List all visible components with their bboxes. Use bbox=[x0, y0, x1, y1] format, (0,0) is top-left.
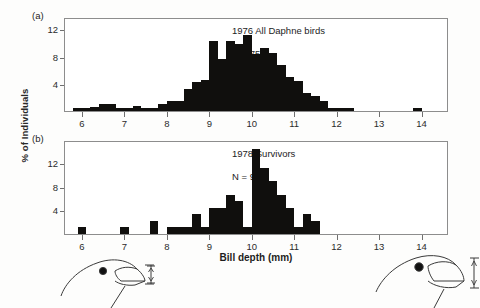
histogram-bar bbox=[303, 214, 311, 234]
finch-head-large-bill-icon bbox=[372, 248, 480, 308]
histogram-bar bbox=[184, 227, 192, 234]
histogram-bar bbox=[311, 221, 319, 234]
histogram-bar bbox=[167, 101, 175, 111]
histogram-bar bbox=[226, 41, 234, 111]
histogram-bar bbox=[184, 89, 192, 111]
finch-head-small-bill-icon bbox=[55, 250, 170, 308]
histogram-bar bbox=[294, 81, 302, 111]
histogram-bar bbox=[345, 108, 353, 111]
histogram-bar bbox=[175, 101, 183, 111]
panel-b-bars bbox=[65, 142, 447, 234]
histogram-bar bbox=[277, 195, 285, 234]
histogram-bar bbox=[252, 54, 260, 111]
histogram-bar bbox=[277, 65, 285, 111]
histogram-bar bbox=[269, 53, 277, 111]
panel-a-bars bbox=[65, 19, 447, 111]
panel-a-letter: (a) bbox=[32, 10, 44, 21]
histogram-bar bbox=[150, 221, 158, 234]
histogram-bar bbox=[141, 108, 149, 111]
figure-container: % of Individuals (a) 1976 All Daphne bir… bbox=[0, 0, 480, 308]
histogram-bar bbox=[243, 227, 251, 234]
histogram-bar bbox=[209, 208, 217, 234]
histogram-bar bbox=[107, 104, 115, 111]
histogram-bar bbox=[413, 108, 421, 111]
histogram-bar bbox=[99, 104, 107, 111]
histogram-bar bbox=[116, 108, 124, 111]
histogram-bar bbox=[158, 104, 166, 111]
histogram-bar bbox=[90, 107, 98, 111]
histogram-bar bbox=[294, 227, 302, 234]
x-axis-label: Bill depth (mm) bbox=[156, 252, 356, 263]
panel-b-letter: (b) bbox=[32, 133, 44, 144]
histogram-bar bbox=[218, 59, 226, 111]
histogram-bar bbox=[286, 77, 294, 111]
histogram-bar bbox=[192, 82, 200, 111]
histogram-bar bbox=[124, 108, 132, 111]
histogram-bar bbox=[209, 41, 217, 111]
histogram-bar bbox=[235, 44, 243, 111]
histogram-bar bbox=[320, 101, 328, 111]
histogram-bar bbox=[260, 168, 268, 234]
histogram-bar bbox=[269, 181, 277, 234]
histogram-bar bbox=[82, 108, 90, 111]
histogram-bar bbox=[167, 227, 175, 234]
histogram-bar bbox=[73, 108, 81, 111]
histogram-bar bbox=[252, 149, 260, 234]
histogram-bar bbox=[286, 208, 294, 234]
histogram-bar bbox=[235, 201, 243, 234]
histogram-bar bbox=[226, 195, 234, 234]
histogram-bar bbox=[175, 227, 183, 234]
histogram-bar bbox=[311, 96, 319, 111]
y-axis-label: % of Individuals bbox=[19, 56, 30, 196]
histogram-bar bbox=[328, 108, 336, 111]
histogram-bar bbox=[201, 80, 209, 111]
histogram-bar bbox=[78, 227, 86, 234]
histogram-bar bbox=[201, 227, 209, 234]
histogram-bar bbox=[243, 35, 251, 111]
histogram-bar bbox=[337, 108, 345, 111]
histogram-bar bbox=[133, 106, 141, 111]
histogram-bar bbox=[218, 208, 226, 234]
histogram-bar bbox=[120, 227, 128, 234]
histogram-bar bbox=[150, 108, 158, 111]
histogram-bar bbox=[303, 93, 311, 111]
histogram-bar bbox=[260, 48, 268, 111]
histogram-bar bbox=[192, 214, 200, 234]
